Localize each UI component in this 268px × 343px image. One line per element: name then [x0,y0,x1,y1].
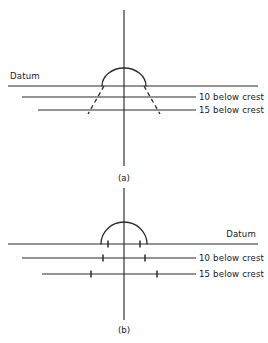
panel-b-caption: (b) [118,325,130,335]
panel-b-label-15-below-crest: 15 below crest [199,269,265,279]
panel-a-caption: (a) [118,173,130,183]
panel-b-label-10-below-crest: 10 below crest [199,253,265,263]
figure-root: Datum 10 below crest 15 below crest (a) … [0,0,268,343]
panel-a: Datum 10 below crest 15 below crest (a) [8,10,265,183]
crest-width-diagram: Datum 10 below crest 15 below crest (a) … [0,0,268,343]
panel-a-datum-label: Datum [10,71,40,81]
panel-b: Datum 10 below crest 15 below crest (b) [8,188,265,335]
panel-a-label-10-below-crest: 10 below crest [199,92,265,102]
panel-b-datum-label: Datum [226,229,256,239]
panel-a-label-15-below-crest: 15 below crest [199,105,265,115]
